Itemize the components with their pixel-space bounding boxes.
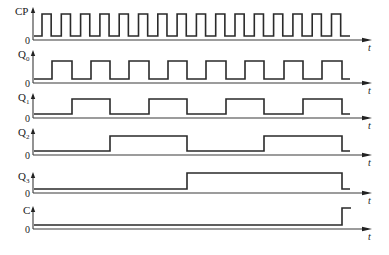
signal-label-q0: Q0 xyxy=(18,48,30,63)
signal-row-q3: t0Q3 xyxy=(18,170,372,206)
signal-row-q0: t0Q0 xyxy=(18,48,372,96)
zero-label: 0 xyxy=(25,113,30,124)
y-axis-arrow-icon xyxy=(31,93,35,99)
time-axis-label: t xyxy=(368,195,371,206)
signal-label-q2: Q2 xyxy=(18,126,30,141)
time-axis-label: t xyxy=(368,42,371,53)
zero-label: 0 xyxy=(25,35,30,46)
zero-label: 0 xyxy=(25,188,30,199)
waveform-cp xyxy=(34,14,350,36)
signal-label-c: C xyxy=(23,204,30,216)
time-axis-label: t xyxy=(368,85,371,96)
signal-row-q1: t0Q1 xyxy=(18,91,372,131)
time-axis-label: t xyxy=(368,157,371,168)
zero-label: 0 xyxy=(25,150,30,161)
zero-label: 0 xyxy=(25,224,30,235)
signal-label-cp: CP xyxy=(15,5,28,17)
waveform-q1 xyxy=(34,99,350,114)
y-axis-arrow-icon xyxy=(31,128,35,134)
timing-diagram: t0CPt0Q0t0Q1t0Q2t0Q3t0C xyxy=(0,0,389,255)
timing-diagram-canvas: t0CPt0Q0t0Q1t0Q2t0Q3t0C xyxy=(0,0,389,255)
y-axis-arrow-icon xyxy=(31,206,35,212)
signal-row-c: t0C xyxy=(23,204,372,242)
waveform-c xyxy=(34,208,351,225)
time-axis-label: t xyxy=(368,120,371,131)
time-axis-label: t xyxy=(368,231,371,242)
signal-row-q2: t0Q2 xyxy=(18,126,372,168)
y-axis-arrow-icon xyxy=(31,50,35,56)
zero-label: 0 xyxy=(25,78,30,89)
signal-label-q3: Q3 xyxy=(18,170,30,185)
signal-row-cp: t0CP xyxy=(15,5,372,53)
waveform-q3 xyxy=(34,173,350,189)
y-axis-arrow-icon xyxy=(31,172,35,178)
waveform-q0 xyxy=(34,61,350,79)
waveform-q2 xyxy=(34,136,350,151)
y-axis-arrow-icon xyxy=(31,7,35,13)
signal-label-q1: Q1 xyxy=(18,91,30,106)
